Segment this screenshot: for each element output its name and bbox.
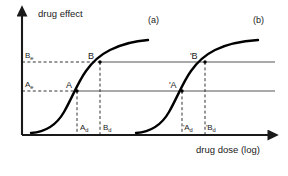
marker-point-b (98, 60, 101, 63)
dose-tick-bd-prime: 'Bd (206, 124, 215, 132)
marker-point-a (75, 89, 78, 92)
point-label-b-prime: 'B (190, 52, 197, 61)
dose-tick-ad: Ad (80, 124, 89, 132)
point-label-a-prime: 'A (169, 81, 176, 90)
curve-b-label: (b) (253, 16, 264, 25)
dose-tick-ad-prime: 'Ad (183, 124, 192, 132)
dose-tick-bd-prime-sub: d (212, 127, 215, 133)
dose-tick-bd-sub: d (108, 127, 111, 133)
dose-response-figure: drug effect drug dose (log) (a) (b) Be A… (0, 0, 288, 176)
x-axis-label: drug dose (log) (196, 145, 260, 155)
y-axis-label: drug effect (38, 9, 83, 19)
marker-point-b-prime (203, 60, 206, 63)
effect-tick-ae-sub: e (30, 84, 33, 90)
effect-tick-be-sub: e (30, 55, 33, 61)
effect-tick-ae: Ae (25, 81, 34, 89)
point-label-a: A (66, 81, 72, 90)
marker-point-a-prime (180, 89, 183, 92)
dose-tick-ad-sub: d (85, 127, 88, 133)
dose-tick-ad-prime-sub: d (189, 127, 192, 133)
curve-a-label: (a) (148, 16, 159, 25)
dose-tick-bd: Bd (103, 124, 112, 132)
point-label-b: B (88, 52, 94, 61)
effect-tick-be: Be (25, 52, 34, 60)
